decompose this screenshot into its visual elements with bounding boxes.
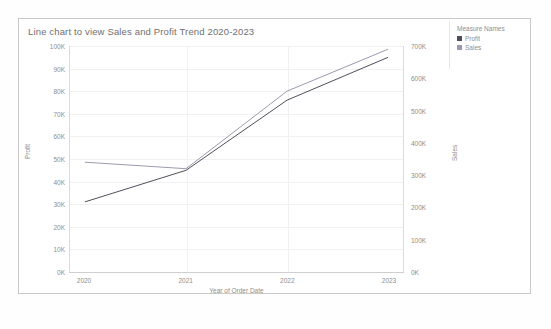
x-axis-tick-label: 2020: [77, 277, 91, 284]
x-axis-baseline: [69, 272, 404, 273]
legend: Measure Names ProfitSales: [457, 25, 525, 53]
legend-items: ProfitSales: [457, 35, 525, 51]
y-axis-right-tick-label: 200K: [411, 204, 426, 211]
x-axis-title: Year of Order Date: [69, 287, 404, 294]
legend-swatch-icon: [457, 45, 462, 50]
y-axis-left-tick-label: 50K: [53, 156, 65, 163]
y-axis-left-tick-label: 30K: [53, 201, 65, 208]
x-axis-tick-label: 2022: [280, 277, 294, 284]
legend-divider: [449, 21, 450, 69]
plot-area: [69, 46, 404, 272]
x-axis-tick-label: 2023: [382, 277, 396, 284]
y-axis-left-tick-label: 90K: [53, 65, 65, 72]
y-axis-right-tick-label: 100K: [411, 236, 426, 243]
y-axis-right-tick-label: 600K: [411, 75, 426, 82]
legend-item[interactable]: Sales: [457, 44, 525, 51]
y-axis-left-tick-label: 60K: [53, 133, 65, 140]
y-axis-left-tick-label: 0K: [57, 269, 65, 276]
legend-item[interactable]: Profit: [457, 35, 525, 42]
x-axis-tick-label: 2021: [178, 277, 192, 284]
y-axis-right-tick-label: 0K: [411, 269, 419, 276]
y-axis-right-tick-label: 500K: [411, 107, 426, 114]
y-axis-right-title: Sales: [451, 145, 458, 161]
y-axis-left-tick-label: 20K: [53, 223, 65, 230]
scan-artifact: [510, 227, 520, 237]
y-axis-left-tick-label: 80K: [53, 88, 65, 95]
legend-item-label: Sales: [465, 44, 481, 51]
chart-worksheet-frame: Line chart to view Sales and Profit Tren…: [18, 18, 531, 294]
legend-swatch-icon: [457, 36, 462, 41]
y-axis-right-ticks: 700K600K500K400K300K200K100K0K: [411, 46, 441, 272]
chart-title: Line chart to view Sales and Profit Tren…: [28, 26, 254, 37]
y-axis-left-tick-label: 70K: [53, 110, 65, 117]
y-axis-left-tick-label: 10K: [53, 246, 65, 253]
line-series-sales: [85, 49, 388, 169]
y-axis-left-tick-label: 40K: [53, 178, 65, 185]
y-axis-left-tick-label: 100K: [50, 43, 65, 50]
y-axis-right-tick-label: 700K: [411, 43, 426, 50]
line-series-svg: [70, 46, 403, 272]
y-axis-left-title: Profit: [24, 144, 31, 159]
legend-item-label: Profit: [465, 35, 480, 42]
legend-title: Measure Names: [457, 25, 525, 32]
y-axis-left-ticks: 100K90K80K70K60K50K40K30K20K10K0K: [41, 46, 65, 272]
y-axis-right-tick-label: 400K: [411, 139, 426, 146]
y-axis-right-tick-label: 300K: [411, 172, 426, 179]
screenshot-root: Line chart to view Sales and Profit Tren…: [0, 0, 551, 329]
